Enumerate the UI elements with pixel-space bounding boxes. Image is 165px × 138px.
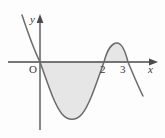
y-axis-label: y [30, 14, 35, 25]
x-axis-label: x [148, 64, 153, 75]
origin-label: O [29, 64, 37, 75]
graph-figure: y x O 2 3 [0, 0, 165, 138]
y-axis [37, 14, 44, 130]
x-tick-label-2: 2 [100, 64, 106, 75]
x-tick-label-3: 3 [120, 64, 126, 75]
graph-canvas [0, 0, 165, 138]
